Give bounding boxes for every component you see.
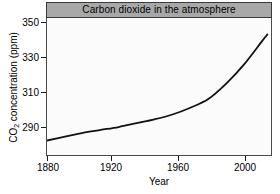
y-axis-title-prefix: CO (8, 128, 19, 143)
y-tick-mark-290 (41, 127, 46, 128)
chart-title-bar: Carbon dioxide in the atmosphere (46, 2, 272, 18)
co2-chart-figure: Carbon dioxide in the atmosphere 350 330… (0, 0, 280, 194)
x-tick-mark-1960 (178, 156, 179, 161)
plot-area (46, 18, 272, 156)
x-tick-label-1920: 1920 (100, 163, 122, 173)
y-tick-label-290: 290 (22, 123, 39, 133)
y-tick-mark-350 (41, 22, 46, 23)
y-tick-mark-330 (41, 57, 46, 58)
x-tick-mark-1880 (47, 156, 48, 161)
co2-line-plot (47, 18, 271, 155)
y-tick-mark-310 (41, 92, 46, 93)
co2-data-line (47, 34, 267, 140)
x-tick-mark-1920 (111, 156, 112, 161)
y-axis-title-subscript: 2 (13, 124, 20, 128)
x-tick-label-2000: 2000 (234, 163, 256, 173)
y-tick-label-310: 310 (22, 88, 39, 98)
y-tick-label-330: 330 (22, 53, 39, 63)
x-tick-mark-2000 (245, 156, 246, 161)
y-tick-label-350: 350 (22, 18, 39, 28)
y-axis-title: CO2 concentration (ppm) (9, 18, 20, 158)
y-axis-title-suffix: concentration (ppm) (8, 32, 19, 124)
x-tick-label-1960: 1960 (167, 163, 189, 173)
x-axis-title: Year (46, 177, 272, 187)
x-tick-label-1880: 1880 (37, 163, 59, 173)
page-title: Carbon dioxide in the atmosphere (82, 5, 235, 15)
